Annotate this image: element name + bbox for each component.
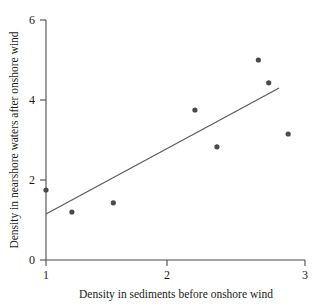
data-point xyxy=(214,144,219,149)
x-tick-label-2: 2 xyxy=(164,268,170,282)
scatter-plot-figure: 0 2 4 6 1 2 3 Density in sediments befor… xyxy=(0,0,326,307)
data-point xyxy=(43,187,48,192)
x-tick-label-1: 1 xyxy=(43,268,49,282)
trend-line xyxy=(46,88,279,214)
y-axis-title: Density in nearshore waters after onshor… xyxy=(8,31,21,248)
x-axis-title: Density in sediments before onshore wind xyxy=(79,288,273,301)
data-point-group xyxy=(43,57,290,214)
y-tick-label-2: 2 xyxy=(29,173,35,187)
y-tick-label-0: 0 xyxy=(29,253,35,267)
data-point xyxy=(286,131,291,136)
data-point xyxy=(69,209,74,214)
x-tick-label-3: 3 xyxy=(302,268,308,282)
y-tick-label-6: 6 xyxy=(29,13,35,27)
data-point xyxy=(192,107,197,112)
data-point xyxy=(256,57,261,62)
data-point xyxy=(111,200,116,205)
y-tick-label-4: 4 xyxy=(29,93,35,107)
data-point xyxy=(266,80,271,85)
